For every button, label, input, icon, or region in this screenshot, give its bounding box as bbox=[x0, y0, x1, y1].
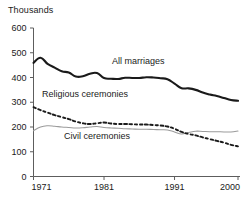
chart-plot-area: 0100200300400500600 1971198119912000 All… bbox=[0, 0, 249, 202]
series-label: Civil ceremonies bbox=[64, 131, 131, 141]
x-tick-label: 1991 bbox=[165, 182, 185, 192]
y-tick-label: 100 bbox=[11, 147, 26, 157]
x-axis: 1971198119912000 bbox=[31, 177, 240, 192]
y-tick-label: 600 bbox=[11, 23, 26, 33]
x-tick-label: 1971 bbox=[31, 182, 51, 192]
x-tick-label: 1981 bbox=[94, 182, 114, 192]
y-tick-label: 500 bbox=[11, 48, 26, 58]
series-label: All marriages bbox=[112, 56, 165, 66]
x-tick-label: 2000 bbox=[220, 182, 240, 192]
y-tick-label: 0 bbox=[21, 172, 26, 182]
y-tick-label: 200 bbox=[11, 122, 26, 132]
y-tick-label: 400 bbox=[11, 73, 26, 83]
y-axis-ticks: 0100200300400500600 bbox=[11, 23, 33, 182]
series-label: Religious ceremonies bbox=[42, 89, 129, 99]
y-axis: 0100200300400500600 bbox=[11, 23, 33, 182]
y-tick-label: 300 bbox=[11, 97, 26, 107]
series-annotations: All marriagesReligious ceremoniesCivil c… bbox=[42, 56, 165, 141]
marriages-line-chart: Thousands 0100200300400500600 1971198119… bbox=[0, 0, 249, 202]
x-axis-ticks: 1971198119912000 bbox=[31, 177, 240, 192]
